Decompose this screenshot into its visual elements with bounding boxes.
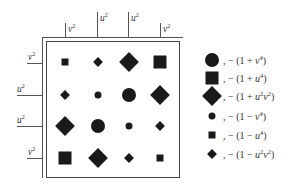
small-square-legend-icon	[209, 132, 216, 139]
legend-label: , − (1 + u4)	[223, 73, 267, 84]
small-circle-marker-icon	[95, 92, 102, 99]
top-tick-4	[160, 23, 161, 38]
large-circle-legend-icon	[205, 53, 219, 67]
left-tick-1	[27, 63, 43, 64]
left-label-3: u2	[17, 114, 25, 126]
top-tick-3	[128, 12, 129, 38]
legend-label: , − (1 − u2v2)	[223, 149, 274, 160]
left-label-4: v2	[28, 146, 35, 158]
legend-label: , − (1 + v4)	[223, 55, 266, 66]
top-tick-2	[97, 12, 98, 38]
top-label-4: v2	[163, 23, 170, 35]
small-square-marker-icon	[62, 59, 69, 66]
left-axis-line	[42, 37, 43, 178]
top-tick-1	[65, 23, 66, 38]
left-label-1: v2	[28, 51, 35, 63]
legend-label: , − (1 + u2v2)	[223, 91, 274, 102]
left-tick-3	[17, 126, 43, 127]
small-circle-legend-icon	[209, 113, 216, 120]
large-circle-marker-icon	[91, 119, 105, 133]
left-tick-4	[27, 158, 43, 159]
left-tick-2	[17, 95, 43, 96]
large-square-marker-icon	[59, 152, 72, 165]
top-axis-line	[42, 37, 183, 38]
left-label-2: u2	[17, 83, 25, 95]
large-square-legend-icon	[206, 72, 219, 85]
top-label-1: v2	[68, 23, 75, 35]
legend-label: , − (1 − u4)	[223, 130, 267, 141]
large-square-marker-icon	[154, 56, 167, 69]
small-diamond-legend-icon	[207, 149, 217, 159]
legend-label: , − (1 − v4)	[223, 111, 266, 122]
top-label-3: u2	[131, 12, 139, 24]
top-label-2: u2	[100, 12, 108, 24]
large-circle-marker-icon	[122, 88, 136, 102]
large-diamond-legend-icon	[202, 86, 222, 106]
small-circle-marker-icon	[126, 123, 133, 130]
small-square-marker-icon	[157, 155, 164, 162]
